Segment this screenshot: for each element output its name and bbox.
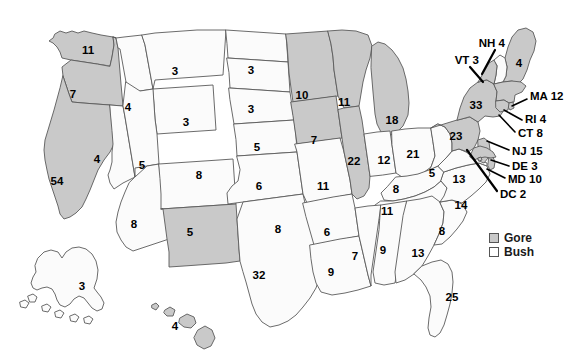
ev-label-in: 12 [378,154,391,166]
ev-label-ky: 8 [393,183,400,195]
ev-label-sd: 3 [248,103,254,115]
ev-label-al: 9 [380,244,386,256]
callout-label-ma: MA 12 [530,90,563,102]
ev-label-wa: 11 [82,44,95,56]
callout-label-nj: NJ 15 [512,145,543,157]
state-sd[interactable] [227,58,290,92]
state-ct[interactable] [496,100,509,112]
ev-label-oh: 21 [407,148,420,160]
electoral-map: 1175444335885335683210711691122181221811… [0,0,585,364]
callout-label-md: MD 10 [508,173,542,185]
state-shapes-group [20,28,536,349]
ev-label-mo: 11 [317,180,330,192]
ev-label-me: 4 [516,57,523,69]
ev-label-mn: 10 [296,89,309,101]
state-nd[interactable] [226,30,288,62]
ev-label-nd: 3 [248,64,254,76]
state-nm[interactable] [161,204,240,267]
ev-label-or: 7 [70,88,76,100]
ev-label-fl: 25 [446,291,459,303]
ev-label-tn: 11 [381,205,394,217]
legend-swatch-bush [489,247,499,257]
ev-label-ok: 8 [275,223,282,235]
state-ak[interactable] [20,247,104,324]
state-mt[interactable] [142,30,226,89]
ev-label-mi: 18 [386,114,399,126]
ev-label-sc: 8 [439,225,446,237]
ev-label-ga: 13 [412,247,425,259]
ev-label-va: 13 [453,173,466,185]
callout-label-ri: RI 4 [525,113,547,125]
state-dc[interactable] [478,157,482,161]
callout-label-dc: DC 2 [500,188,526,200]
ev-label-ny: 33 [470,99,483,111]
ev-label-mt: 3 [172,65,178,77]
ev-label-pa: 23 [450,130,463,142]
us-map-svg: 1175444335885335683210711691122181221811… [0,0,585,364]
ev-label-nc: 14 [455,199,468,211]
callout-label-ct: CT 8 [518,127,544,139]
state-de[interactable] [488,157,495,170]
ev-label-wv: 5 [429,167,436,179]
ev-label-ca: 54 [51,175,64,187]
state-co[interactable] [159,159,236,209]
leader-line-ri [504,110,522,120]
ev-label-la: 9 [328,266,334,278]
ev-label-ia: 7 [311,134,317,146]
legend-label-gore: Gore [504,232,532,244]
ev-label-ks: 6 [256,180,262,192]
ev-label-il: 22 [348,155,361,167]
ev-label-ak: 3 [79,280,85,292]
ev-label-ut: 5 [139,159,146,171]
callout-label-vt: VT 3 [455,54,479,66]
ev-label-ar: 6 [324,226,330,238]
leader-line-ct [499,115,515,132]
ev-label-tx: 32 [253,269,266,281]
legend: Gore Bush [489,232,575,260]
legend-label-bush: Bush [504,246,534,258]
ev-label-ne: 5 [254,141,261,153]
ev-label-id: 4 [125,101,132,113]
ev-label-wi: 11 [338,96,351,108]
ev-label-wy: 3 [183,116,189,128]
legend-row-gore: Gore [489,232,575,244]
leader-line-nj [487,141,509,150]
callout-label-de: DE 3 [512,160,538,172]
state-hi[interactable] [152,303,215,349]
state-ma[interactable] [494,81,526,103]
callout-label-nh: NH 4 [479,37,506,49]
ev-label-az: 8 [131,218,138,230]
ev-label-hi: 4 [172,320,179,332]
state-me[interactable] [503,28,536,84]
state-ne[interactable] [229,88,294,124]
legend-row-bush: Bush [489,246,575,258]
ev-label-co: 8 [196,169,203,181]
ev-label-nv: 4 [94,153,101,165]
legend-swatch-gore [489,233,499,243]
ev-label-nm: 5 [187,226,194,238]
ev-label-ms: 7 [352,250,358,262]
state-ks[interactable] [234,120,297,156]
